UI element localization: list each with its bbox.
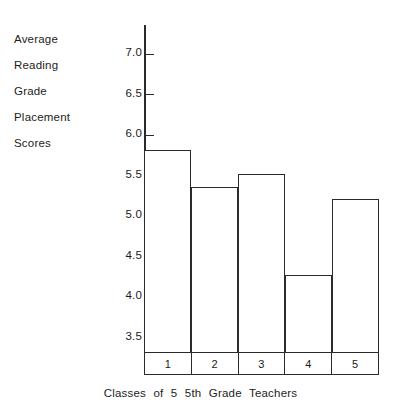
y-axis-caption-line-5: Scores — [14, 130, 124, 156]
category-label-5: 5 — [332, 353, 378, 374]
y-tick-label: 4.5 — [125, 249, 142, 261]
plot-area: 7.0 6.5 6.0 5.5 5.0 4.5 — [144, 25, 379, 352]
bar-class-5[interactable] — [332, 199, 379, 352]
bar-class-4[interactable] — [285, 275, 332, 352]
y-axis-caption: Average Reading Grade Placement Scores — [14, 26, 124, 156]
bars-layer — [144, 25, 379, 352]
y-tick-label: 6.0 — [125, 127, 142, 139]
y-tick-label: 6.5 — [125, 87, 142, 99]
y-tick-label: 7.0 — [125, 46, 142, 58]
category-label-2: 2 — [192, 353, 239, 374]
y-tick-label: 3.5 — [125, 330, 142, 342]
bar-class-2[interactable] — [191, 187, 238, 353]
y-tick-label: 4.0 — [125, 289, 142, 301]
y-axis-caption-line-4: Placement — [14, 104, 124, 130]
bar-class-3[interactable] — [238, 174, 285, 352]
y-tick-label: 5.0 — [125, 208, 142, 220]
y-axis-caption-line-1: Average — [14, 26, 124, 52]
category-label-row: 1 2 3 4 5 — [144, 352, 379, 375]
category-label-4: 4 — [285, 353, 332, 374]
y-axis-caption-line-3: Grade — [14, 78, 124, 104]
x-axis-caption: Classes of 5 5th Grade Teachers — [0, 387, 401, 399]
y-tick-label: 5.5 — [125, 168, 142, 180]
category-label-1: 1 — [145, 353, 192, 374]
category-label-3: 3 — [239, 353, 286, 374]
bar-class-1[interactable] — [144, 150, 191, 352]
y-axis-caption-line-2: Reading — [14, 52, 124, 78]
bar-chart-figure: Average Reading Grade Placement Scores 7… — [0, 0, 401, 408]
